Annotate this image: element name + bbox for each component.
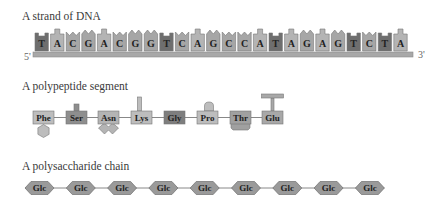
- glucose-unit: Glc: [190, 182, 219, 195]
- glucose-label: Glc: [239, 183, 253, 193]
- glucose-unit: Glc: [314, 182, 343, 195]
- glucose-label: Glc: [363, 183, 377, 193]
- polysaccharide-diagram: GlcGlcGlcGlcGlcGlcGlcGlcGlc: [0, 0, 441, 221]
- glucose-label: Glc: [74, 183, 88, 193]
- glucose-label: Glc: [115, 183, 129, 193]
- glucose-label: Glc: [33, 183, 47, 193]
- glucose-unit: Glc: [232, 182, 261, 195]
- glucose-unit: Glc: [25, 182, 54, 195]
- glucose-unit: Glc: [355, 182, 384, 195]
- glucose-label: Glc: [157, 183, 171, 193]
- glucose-unit: Glc: [273, 182, 302, 195]
- glucose-unit: Glc: [108, 182, 137, 195]
- glucose-unit: Glc: [66, 182, 95, 195]
- glucose-label: Glc: [322, 183, 336, 193]
- glucose-label: Glc: [198, 183, 212, 193]
- glucose-label: Glc: [281, 183, 295, 193]
- glucose-unit: Glc: [149, 182, 178, 195]
